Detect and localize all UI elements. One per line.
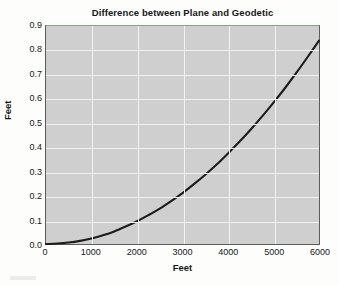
- y-tick-label: 0.1: [2, 216, 42, 226]
- y-tick-label: 0.2: [2, 191, 42, 201]
- x-tick-label: 6000: [295, 247, 339, 257]
- gridline-vertical: [184, 26, 185, 244]
- y-tick-label: 0.7: [2, 69, 42, 79]
- x-tick-label: 5000: [249, 247, 299, 257]
- y-tick-label: 0.9: [2, 20, 42, 30]
- x-tick-label: 0: [20, 247, 70, 257]
- chart-figure: Difference between Plane and Geodetic Fe…: [0, 0, 339, 285]
- chart-title: Difference between Plane and Geodetic: [45, 7, 320, 18]
- x-tick-label: 3000: [158, 247, 208, 257]
- gridline-horizontal: [46, 75, 319, 76]
- y-tick-label: 0.5: [2, 118, 42, 128]
- x-axis-ticks: 0100020003000400050006000: [45, 247, 320, 261]
- gridline-vertical: [229, 26, 230, 244]
- gridline-horizontal: [46, 124, 319, 125]
- gridline-vertical: [275, 26, 276, 244]
- y-tick-label: 0.6: [2, 93, 42, 103]
- gridline-vertical: [138, 26, 139, 244]
- x-tick-label: 1000: [66, 247, 116, 257]
- gridline-horizontal: [46, 99, 319, 100]
- y-axis-ticks: 0.00.10.20.30.40.50.60.70.80.9: [0, 25, 42, 245]
- gridline-horizontal: [46, 173, 319, 174]
- gridline-horizontal: [46, 222, 319, 223]
- y-tick-label: 0.4: [2, 142, 42, 152]
- gridline-horizontal: [46, 148, 319, 149]
- y-tick-label: 0.3: [2, 167, 42, 177]
- gridline-horizontal: [46, 50, 319, 51]
- scan-artifact: [10, 276, 36, 280]
- gridline-horizontal: [46, 197, 319, 198]
- plot-area: [45, 25, 320, 245]
- gridline-vertical: [92, 26, 93, 244]
- x-tick-label: 2000: [112, 247, 162, 257]
- y-tick-label: 0.8: [2, 44, 42, 54]
- data-curve: [46, 26, 319, 244]
- x-tick-label: 4000: [203, 247, 253, 257]
- plot-inner: [46, 26, 319, 244]
- x-axis-label: Feet: [45, 262, 320, 273]
